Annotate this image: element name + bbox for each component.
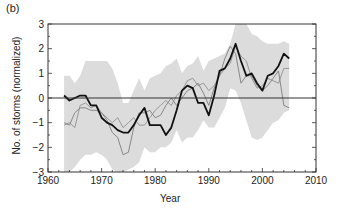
y-tick-label: −3	[33, 167, 45, 178]
y-tick-label: −1	[33, 117, 45, 128]
y-tick-label: 0	[38, 93, 44, 104]
x-tick-label: 1980	[144, 175, 167, 186]
x-axis-ticks: 196019701980199020002010	[37, 168, 328, 186]
y-tick-label: 1	[38, 68, 44, 79]
y-tick-label: 3	[38, 19, 44, 30]
x-tick-label: 1970	[90, 175, 113, 186]
x-tick-label: 2000	[251, 175, 274, 186]
y-tick-label: −2	[33, 142, 45, 153]
x-tick-label: 1990	[198, 175, 221, 186]
y-tick-label: 2	[38, 43, 44, 54]
line-chart: 196019701980199020002010 −3−2−10123	[0, 0, 339, 210]
x-tick-label: 2010	[305, 175, 328, 186]
